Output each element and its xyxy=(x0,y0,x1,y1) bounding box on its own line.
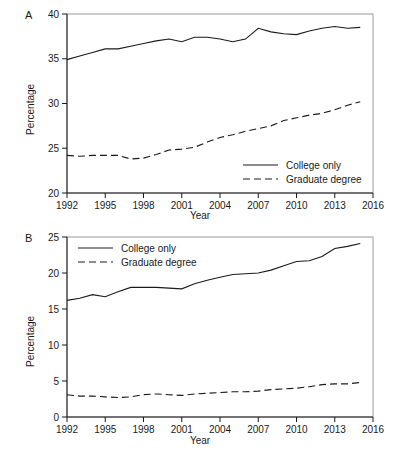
panel-a-series-graduate-degree xyxy=(67,102,360,159)
panel-a-ytick-3: 35 xyxy=(48,53,60,64)
panel-b-x-ticks: 1992 1995 1998 2001 2004 2007 2010 2013 … xyxy=(56,417,385,435)
panel-b-ytick-0: 0 xyxy=(53,412,59,423)
panel-b-legend-label-graduate-degree: Graduate degree xyxy=(121,257,197,268)
panel-a-xtick-5: 2007 xyxy=(247,200,270,211)
panel-a-y-ticks: 20 25 30 35 40 xyxy=(48,9,67,199)
panel-a-x-ticks: 1992 1995 1998 2001 2004 2007 2010 2013 … xyxy=(56,193,385,211)
panel-b-xtick-5: 2007 xyxy=(247,424,270,435)
panel-a-xtick-2: 1998 xyxy=(132,200,155,211)
panel-a-xtick-0: 1992 xyxy=(56,200,79,211)
panel-b-legend: College only Graduate degree xyxy=(78,243,197,268)
panel-a-xtick-4: 2004 xyxy=(209,200,232,211)
panel-b-plot: 0 5 10 15 20 25 1992 1995 1998 2 xyxy=(0,227,398,454)
panel-a-series-college-only xyxy=(67,27,360,60)
panel-a-xtick-6: 2010 xyxy=(285,200,308,211)
panel-a-xtick-1: 1995 xyxy=(94,200,117,211)
panel-b-ytick-3: 15 xyxy=(48,304,60,315)
panel-b-ytick-1: 5 xyxy=(53,376,59,387)
panel-b-xtick-0: 1992 xyxy=(56,424,79,435)
panel-b-xtick-3: 2001 xyxy=(171,424,194,435)
panel-a-legend-label-graduate-degree: Graduate degree xyxy=(286,174,362,185)
panel-b-series-graduate-degree xyxy=(67,382,360,397)
panel-a: A Percentage Year 20 25 30 35 40 xyxy=(0,0,398,227)
panel-a-ytick-1: 25 xyxy=(48,143,60,154)
panel-b-xtick-6: 2010 xyxy=(285,424,308,435)
panel-b-series-college-only xyxy=(67,243,360,300)
panel-b-xtick-1: 1995 xyxy=(94,424,117,435)
panel-b-xtick-8: 2016 xyxy=(362,424,385,435)
panel-b-xtick-7: 2013 xyxy=(324,424,347,435)
panel-b-xtick-4: 2004 xyxy=(209,424,232,435)
panel-a-ytick-4: 40 xyxy=(48,9,60,20)
panel-b-ytick-4: 20 xyxy=(48,268,60,279)
panel-a-xtick-3: 2001 xyxy=(171,200,194,211)
panel-b-y-ticks: 0 5 10 15 20 25 xyxy=(48,232,67,423)
panel-a-ytick-0: 20 xyxy=(48,188,60,199)
panel-a-xtick-8: 2016 xyxy=(362,200,385,211)
panel-b-legend-label-college-only: College only xyxy=(121,243,176,254)
panel-a-legend-label-college-only: College only xyxy=(286,160,341,171)
panel-b-ytick-5: 25 xyxy=(48,232,60,243)
panel-a-xtick-7: 2013 xyxy=(324,200,347,211)
panel-b-ytick-2: 10 xyxy=(48,340,60,351)
panel-a-plot: 20 25 30 35 40 1992 1995 1998 200 xyxy=(0,0,398,227)
panel-b: B Percentage Year 0 5 10 15 20 25 xyxy=(0,227,398,454)
figure-two-panel-line-charts: A Percentage Year 20 25 30 35 40 xyxy=(0,0,398,454)
panel-a-legend: College only Graduate degree xyxy=(243,160,362,185)
panel-a-ytick-2: 30 xyxy=(48,98,60,109)
panel-b-plot-frame xyxy=(67,237,373,417)
panel-b-xtick-2: 1998 xyxy=(132,424,155,435)
